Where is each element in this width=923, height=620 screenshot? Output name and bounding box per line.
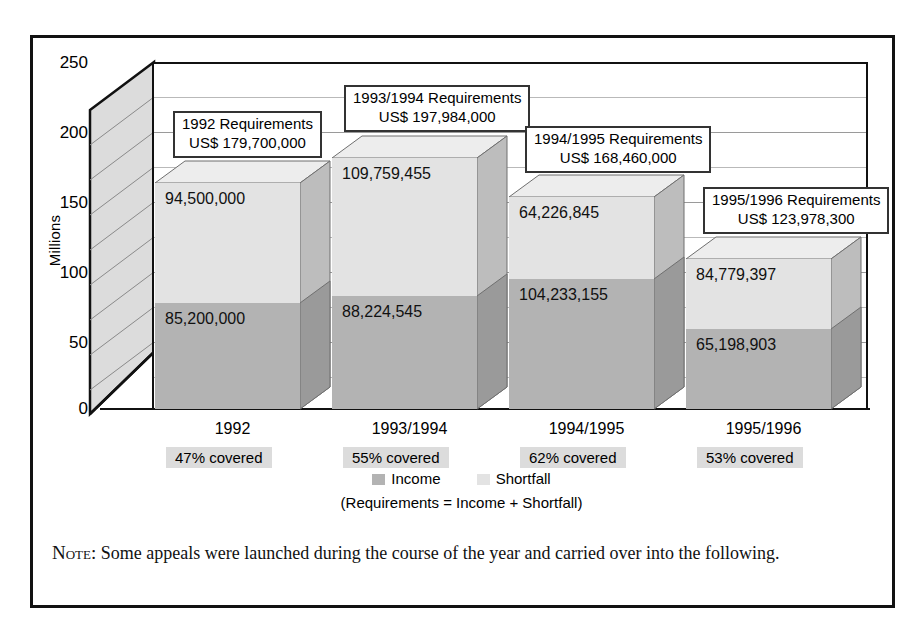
bar-1992-shortfall-label: 94,500,000	[165, 190, 245, 208]
callout-1992-line1: 1992 Requirements	[182, 115, 313, 134]
bar-1993-1994[interactable]: 109,759,455 88,224,545	[332, 136, 477, 409]
callout-1992: 1992 Requirements US$ 179,700,000	[173, 111, 322, 158]
coverage-badge-1992: 47% covered	[166, 447, 272, 468]
legend-formula: (Requirements = Income + Shortfall)	[0, 494, 923, 511]
category-label-1994-1995: 1994/1995	[514, 420, 659, 438]
callout-1995-1996: 1995/1996 Requirements US$ 123,978,300	[703, 187, 889, 234]
bar-1993-1994-income-label: 88,224,545	[342, 303, 422, 321]
callout-1994-1995-line2: US$ 168,460,000	[534, 149, 702, 168]
legend-item-income[interactable]: Income	[372, 470, 440, 487]
y-tick-200: 200	[36, 124, 88, 141]
chart-figure: Millions 250 200 150 100 50 0	[0, 0, 923, 620]
bar-1992-income[interactable]: 85,200,000	[155, 303, 300, 409]
y-tick-250: 250	[36, 54, 88, 71]
coverage-badge-1994-1995: 62% covered	[520, 447, 626, 468]
legend-item-shortfall[interactable]: Shortfall	[477, 470, 551, 487]
bar-1995-1996-shortfall[interactable]: 84,779,397	[686, 259, 831, 329]
coverage-badge-1993-1994: 55% covered	[343, 447, 449, 468]
callout-1994-1995-line1: 1994/1995 Requirements	[534, 130, 702, 149]
category-label-1995-1996: 1995/1996	[691, 420, 836, 438]
legend-swatch-income-icon	[372, 474, 385, 485]
bar-1995-1996-income-label: 65,198,903	[696, 336, 776, 354]
callout-1993-1994-line2: US$ 197,984,000	[353, 108, 521, 127]
legend-label-income: Income	[391, 470, 440, 487]
callout-1992-line2: US$ 179,700,000	[182, 134, 313, 153]
y-tick-100: 100	[36, 264, 88, 281]
bar-1994-1995[interactable]: 64,226,845 104,233,155	[509, 175, 654, 409]
bar-1993-1994-income[interactable]: 88,224,545	[332, 296, 477, 409]
coverage-badge-1995-1996: 53% covered	[697, 447, 803, 468]
y-tick-50: 50	[36, 334, 88, 351]
callout-1995-1996-line1: 1995/1996 Requirements	[712, 191, 880, 210]
figure-note: Note: Some appeals were launched during …	[52, 540, 872, 565]
bar-1994-1995-shortfall-label: 64,226,845	[519, 204, 599, 222]
plot-area: Millions 250 200 150 100 50 0	[0, 0, 923, 620]
category-label-1992: 1992	[160, 420, 305, 438]
legend-label-shortfall: Shortfall	[496, 470, 551, 487]
bar-1995-1996-income[interactable]: 65,198,903	[686, 329, 831, 409]
bar-1992-income-label: 85,200,000	[165, 310, 245, 328]
y-tick-0: 0	[36, 400, 88, 417]
legend-swatch-shortfall-icon	[477, 474, 490, 485]
callout-1993-1994: 1993/1994 Requirements US$ 197,984,000	[344, 85, 530, 132]
bar-1995-1996-shortfall-label: 84,779,397	[696, 266, 776, 284]
bar-1994-1995-income-label: 104,233,155	[519, 286, 608, 304]
callout-1994-1995: 1994/1995 Requirements US$ 168,460,000	[525, 126, 711, 173]
bar-1993-1994-shortfall[interactable]: 109,759,455	[332, 158, 477, 296]
y-tick-150: 150	[36, 194, 88, 211]
bar-1992[interactable]: 94,500,000 85,200,000	[155, 161, 300, 409]
callout-1993-1994-line1: 1993/1994 Requirements	[353, 89, 521, 108]
bar-1995-1996[interactable]: 84,779,397 65,198,903	[686, 237, 831, 409]
bar-1994-1995-income[interactable]: 104,233,155	[509, 279, 654, 409]
figure-note-label: Note:	[52, 542, 96, 563]
bar-1992-shortfall[interactable]: 94,500,000	[155, 183, 300, 303]
chart-legend: Income Shortfall	[0, 470, 923, 487]
category-label-1993-1994: 1993/1994	[337, 420, 482, 438]
callout-1995-1996-line2: US$ 123,978,300	[712, 210, 880, 229]
figure-note-text: Some appeals were launched during the co…	[96, 543, 779, 563]
bar-1994-1995-shortfall[interactable]: 64,226,845	[509, 197, 654, 279]
bar-1993-1994-shortfall-label: 109,759,455	[342, 165, 431, 183]
